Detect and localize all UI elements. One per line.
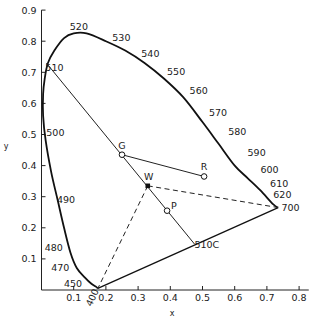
- y-tick-label: 0.9: [21, 5, 36, 16]
- point-R-marker: [201, 174, 207, 180]
- y-tick-label: 0.7: [21, 67, 36, 78]
- x-tick-label: 0.8: [292, 292, 307, 303]
- spectral-locus: [43, 33, 278, 289]
- wavelength-label: 610: [270, 178, 288, 189]
- x-axis-title: x: [170, 309, 175, 318]
- point-G-label: G: [118, 140, 125, 151]
- wavelength-label: 550: [167, 66, 185, 77]
- point-G-marker: [119, 152, 125, 158]
- x-tick-label: 0.4: [163, 292, 178, 303]
- x-tick-label: 0.1: [66, 292, 81, 303]
- wavelength-label: 520: [70, 21, 88, 32]
- wavelength-label: 530: [112, 32, 130, 43]
- wavelength-label: 510C: [194, 239, 219, 250]
- wavelength-label: 500: [46, 127, 64, 138]
- point-P-label: P: [171, 200, 177, 211]
- y-tick-label: 0.2: [21, 222, 36, 233]
- wavelength-label: 450: [64, 278, 82, 289]
- wavelength-label: 620: [273, 189, 291, 200]
- wavelength-label: 570: [209, 107, 227, 118]
- wavelength-label: 510: [45, 62, 63, 73]
- y-tick-label: 0.5: [21, 129, 36, 140]
- y-axis-title: y: [4, 142, 9, 151]
- chromaticity-points: WGRP: [118, 140, 207, 214]
- purple-line: [98, 208, 278, 289]
- wavelength-label: 700: [281, 202, 299, 213]
- spectral-locus-curve: [43, 33, 278, 289]
- y-tick-label: 0.1: [21, 253, 36, 264]
- x-tick-label: 0.2: [98, 292, 113, 303]
- x-tick-label: 0.7: [259, 292, 274, 303]
- chromaticity-diagram: 0.10.20.30.40.50.60.70.80.10.20.30.40.50…: [0, 0, 313, 324]
- point-R-label: R: [201, 161, 208, 172]
- y-tick-label: 0.8: [21, 36, 36, 47]
- point-W-marker: [145, 184, 150, 189]
- construction-lines: [46, 63, 278, 288]
- x-tick-label: 0.5: [195, 292, 210, 303]
- y-tick-label: 0.4: [21, 160, 36, 171]
- wavelength-label: 490: [57, 194, 75, 205]
- wavelength-label: 470: [51, 262, 69, 273]
- wavelength-label: 540: [141, 48, 159, 59]
- wavelength-labels: 5205305405505605705805906006106207005105…: [45, 21, 300, 308]
- wavelength-label: 600: [260, 164, 278, 175]
- y-tick-label: 0.6: [21, 98, 36, 109]
- wavelength-label: 580: [228, 126, 246, 137]
- x-tick-label: 0.6: [227, 292, 242, 303]
- y-tick-label: 0.3: [21, 191, 36, 202]
- point-W-label: W: [144, 171, 154, 182]
- x-tick-label: 0.3: [131, 292, 146, 303]
- wavelength-label: 480: [45, 242, 63, 253]
- line-W-to-400: [98, 186, 148, 289]
- point-P-marker: [164, 208, 170, 214]
- line-G-to-R: [122, 155, 204, 177]
- wavelength-label: 590: [248, 147, 266, 158]
- wavelength-label: 560: [190, 85, 208, 96]
